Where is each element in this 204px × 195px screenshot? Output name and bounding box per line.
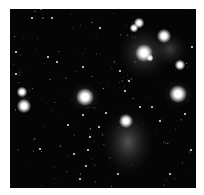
faint-star — [184, 113, 186, 115]
faint-star — [73, 153, 75, 155]
faint-star — [99, 27, 101, 29]
faint-star — [82, 66, 84, 68]
faint-star — [39, 148, 41, 150]
faint-star — [98, 126, 100, 128]
faint-star — [139, 106, 141, 108]
faint-star — [117, 173, 119, 175]
faint-star — [79, 178, 81, 180]
faint-star — [51, 17, 53, 19]
faint-star — [191, 46, 193, 48]
faint-star — [15, 51, 17, 53]
faint-star — [128, 80, 130, 82]
faint-star — [82, 114, 84, 116]
faint-star — [85, 165, 87, 167]
night-sky — [10, 9, 196, 188]
faint-star — [15, 73, 17, 75]
faint-star — [105, 112, 107, 114]
faint-star — [119, 70, 121, 72]
faint-star — [159, 120, 161, 122]
faint-star — [67, 124, 69, 126]
faint-star — [31, 17, 33, 19]
faint-star — [89, 136, 91, 138]
faint-star — [190, 149, 192, 151]
faint-star — [47, 56, 49, 58]
faint-star — [151, 106, 153, 108]
faint-star — [169, 173, 171, 175]
faint-star — [87, 149, 89, 151]
star-cluster-photo — [10, 9, 196, 188]
faint-star — [124, 90, 126, 92]
faint-star — [56, 61, 58, 63]
